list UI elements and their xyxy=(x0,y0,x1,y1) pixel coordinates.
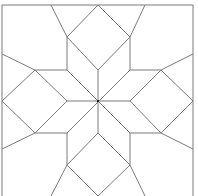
pattern-line xyxy=(2,70,35,101)
pattern-line xyxy=(2,133,35,149)
pattern-line xyxy=(67,133,98,165)
pattern-line xyxy=(161,54,193,70)
center-point xyxy=(97,100,99,102)
pattern-line xyxy=(130,70,161,101)
pattern-line xyxy=(67,37,98,70)
pattern-line xyxy=(130,165,145,196)
pattern-line xyxy=(35,101,67,133)
pattern-line xyxy=(51,5,67,37)
pattern-line xyxy=(35,70,67,101)
pattern-line xyxy=(67,5,98,37)
pattern-line xyxy=(98,165,130,196)
quilt-block-diagram xyxy=(0,0,198,196)
pattern-line xyxy=(130,5,145,37)
pattern-line xyxy=(67,165,98,196)
pattern-line xyxy=(98,133,130,165)
pattern-line xyxy=(2,101,35,133)
pattern-line xyxy=(98,5,130,37)
pattern-line xyxy=(51,165,67,196)
pattern-line xyxy=(161,101,193,133)
pattern-line xyxy=(161,133,193,149)
pattern-line xyxy=(130,101,161,133)
pattern-line xyxy=(161,70,193,101)
pattern-line xyxy=(2,54,35,70)
pattern-line xyxy=(98,37,130,70)
